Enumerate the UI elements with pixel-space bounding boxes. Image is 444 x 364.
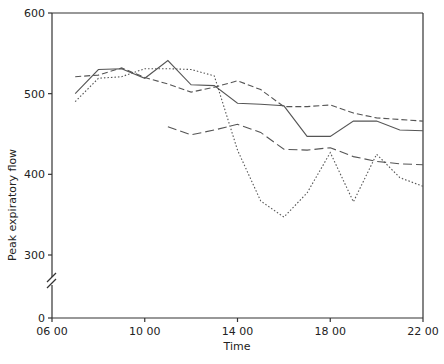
y-tick-label: 0 [38,312,45,325]
x-axis-title: Time [223,340,251,353]
y-axis-title: Peak expiratory flow [6,149,19,261]
y-tick-label: 500 [24,88,45,101]
x-tick-label: 18 00 [315,325,347,338]
x-tick-label: 22 00 [407,325,439,338]
y-tick-label: 600 [24,7,45,20]
y-tick-label: 300 [24,249,45,262]
x-tick-label: 14 00 [222,325,254,338]
series-line-dotted [75,69,423,217]
line-chart: 030040050060006 0010 0014 0018 0022 00 T… [0,0,444,364]
series-line-solid [75,61,423,137]
axes: 030040050060006 0010 0014 0018 0022 00 [24,7,439,338]
series-line-medium-dashed [168,124,423,164]
series-group [75,61,423,218]
y-tick-label: 400 [24,168,45,181]
x-tick-label: 10 00 [129,325,161,338]
x-tick-label: 06 00 [36,325,68,338]
series-line-long-dashed [75,68,423,121]
